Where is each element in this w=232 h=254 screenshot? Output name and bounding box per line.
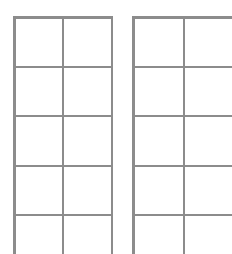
- grid-row-divider: [13, 214, 113, 216]
- grid-outer-left-line: [132, 17, 135, 254]
- grid-row-divider: [13, 115, 113, 117]
- grid-column-divider: [62, 17, 64, 254]
- grid-row-divider: [132, 165, 232, 167]
- grid-column-divider: [183, 17, 185, 254]
- grid-row-divider: [13, 66, 113, 68]
- grid-row-divider: [13, 165, 113, 167]
- grid-row-divider: [132, 66, 232, 68]
- grid-outer-top-line: [13, 16, 113, 19]
- grid-row-divider: [132, 214, 232, 216]
- grid-outer-left-line: [13, 17, 16, 254]
- grid-outer-top-line: [132, 16, 232, 19]
- grid-outer-right-line: [111, 17, 113, 254]
- grid-row-divider: [132, 115, 232, 117]
